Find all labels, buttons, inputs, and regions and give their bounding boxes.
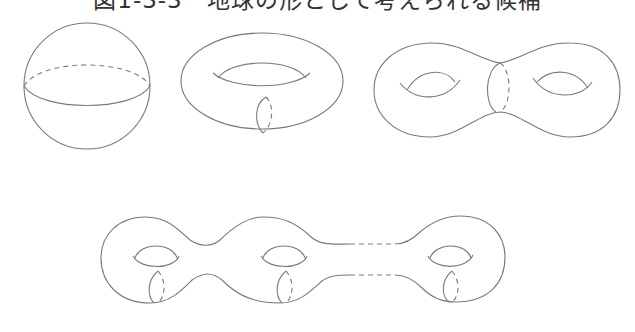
torus-meridian-back xyxy=(263,97,272,133)
double-torus-meridian-back xyxy=(500,63,509,112)
n-holed-torus-meridian-n-back xyxy=(452,271,458,302)
double-torus-hole-left-lower xyxy=(400,80,460,97)
surfaces-diagram xyxy=(0,0,635,332)
n-holed-torus-meridian-2-front xyxy=(277,271,286,303)
sphere-outline xyxy=(24,23,150,149)
torus-shape xyxy=(181,33,343,133)
double-torus-shape xyxy=(374,43,620,137)
n-holed-torus-hole-1-upper xyxy=(135,246,177,258)
n-holed-torus-hole-n-upper xyxy=(430,246,471,258)
double-torus-meridian-front xyxy=(487,63,500,112)
n-holed-torus-meridian-1-back xyxy=(158,271,164,303)
n-holed-torus-meridian-1-front xyxy=(149,271,158,303)
torus-meridian-front xyxy=(257,97,266,133)
double-torus-hole-right-upper xyxy=(537,72,588,88)
double-torus-hole-left-upper xyxy=(407,72,455,90)
n-holed-torus-meridian-n-front xyxy=(443,271,452,302)
double-torus-hole-right-lower xyxy=(533,78,592,95)
n-holed-torus-shape xyxy=(101,216,505,303)
torus-hole-lower xyxy=(213,73,310,86)
torus-hole-upper xyxy=(218,63,306,78)
n-holed-torus-outline-right xyxy=(395,216,505,302)
n-holed-torus-hole-2-lower xyxy=(261,256,307,267)
n-holed-torus-hole-1-lower xyxy=(133,256,179,267)
sphere-equator-back xyxy=(24,65,150,86)
n-holed-torus-hole-2-upper xyxy=(263,246,305,258)
sphere-equator-front xyxy=(24,86,150,106)
n-holed-torus-meridian-2-back xyxy=(286,271,292,303)
n-holed-torus-hole-n-lower xyxy=(428,255,473,266)
torus-outline xyxy=(181,33,343,129)
sphere-shape xyxy=(24,23,150,149)
n-holed-torus-outline-left xyxy=(101,217,350,303)
